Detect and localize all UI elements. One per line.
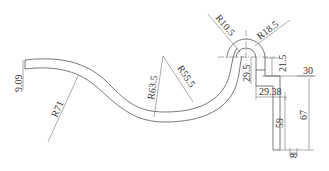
dim-label-r18-5: R18.5 [255,18,281,41]
dim-label-29-5: 29.5 [241,65,252,83]
dim-label-29-38: 29.38 [259,86,282,97]
dim-label-30: 30 [303,65,313,76]
dim-label-8: 8 [288,153,299,158]
dim-label-r55-5: R55.5 [175,63,197,89]
dim-label-21-5: 21.5 [277,55,288,73]
technical-drawing: 9.09 R71 R63.5 R55.5 R10.5 R18.5 29.5 21… [0,0,329,171]
dim-label-r71: R71 [49,99,66,119]
dim-label-thickness: 9.09 [13,75,24,93]
dim-label-67: 67 [298,110,309,120]
dim-label-59: 59 [274,118,285,128]
